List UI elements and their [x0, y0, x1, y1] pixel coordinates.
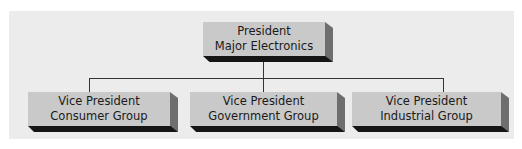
- box-subtitle: Major Electronics: [215, 39, 313, 54]
- box-front-face: Vice President Government Group: [190, 92, 337, 126]
- box-subtitle: Government Group: [208, 109, 318, 124]
- box-side-face: [337, 92, 345, 132]
- org-box-vp-industrial: Vice President Industrial Group: [352, 92, 509, 132]
- box-front-face: Vice President Industrial Group: [352, 92, 501, 126]
- box-side-face: [501, 92, 509, 132]
- connector-horizontal: [89, 78, 444, 79]
- box-title: President: [237, 24, 291, 39]
- box-bottom-face: [28, 126, 178, 132]
- org-box-vp-consumer: Vice President Consumer Group: [28, 92, 178, 132]
- box-bottom-face: [352, 126, 509, 132]
- box-side-face: [170, 92, 178, 132]
- box-title: Vice President: [386, 94, 468, 109]
- box-front-face: Vice President Consumer Group: [28, 92, 170, 126]
- connector-industrial: [443, 78, 444, 92]
- org-box-president: President Major Electronics: [203, 22, 333, 62]
- box-title: Vice President: [58, 94, 140, 109]
- connector-government: [263, 78, 264, 92]
- connector-root-down: [263, 60, 264, 78]
- box-side-face: [325, 22, 333, 62]
- box-subtitle: Consumer Group: [50, 109, 147, 124]
- org-box-vp-government: Vice President Government Group: [190, 92, 345, 132]
- connector-consumer: [89, 78, 90, 92]
- box-bottom-face: [203, 56, 333, 62]
- box-bottom-face: [190, 126, 345, 132]
- box-front-face: President Major Electronics: [203, 22, 325, 56]
- box-title: Vice President: [223, 94, 305, 109]
- box-subtitle: Industrial Group: [380, 109, 473, 124]
